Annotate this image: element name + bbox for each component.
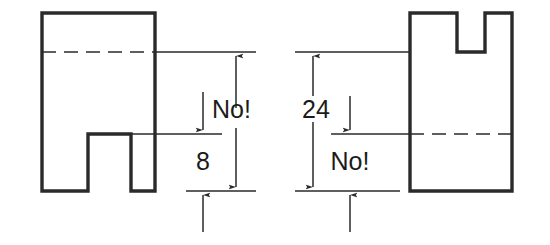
right-inner-dimension: No! [331, 96, 410, 232]
engineering-drawing-figure: No! 8 24 No! [0, 0, 550, 245]
right-inner-dimension-label: No! [331, 147, 370, 175]
right-part-view [410, 13, 512, 191]
right-part-outline [410, 13, 512, 191]
right-outer-dimension-label: 24 [302, 95, 330, 123]
left-inner-dimension-label: 8 [196, 147, 210, 175]
left-part-outline [42, 13, 155, 191]
left-outer-dimension-label: No! [212, 95, 251, 123]
drawing-canvas: No! 8 24 No! [0, 0, 550, 245]
left-part-view [42, 13, 155, 191]
